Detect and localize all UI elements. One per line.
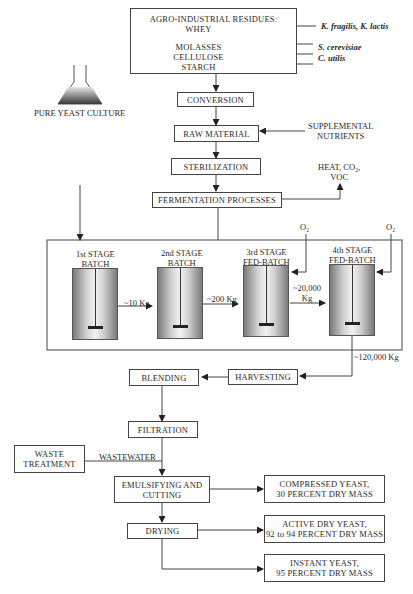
emulsifying-cutting-box: EMULSIFYING AND CUTTING [114, 476, 210, 503]
residues-heading: AGRO-INDUSTRIAL RESIDUES: [150, 14, 278, 24]
waste-treatment-box: WASTE TREATMENT [14, 445, 85, 473]
oxygen-label-3: O₂ [300, 222, 309, 232]
fermentation-box: FERMENTATION PROCESSES [152, 192, 282, 208]
wastewater-label: WASTEWATER [99, 452, 156, 462]
blending-box: BLENDING [129, 369, 199, 386]
transfer-4-out: ~120,000 Kg [354, 352, 399, 362]
emissions-label: HEAT, CO₂, VOC [318, 162, 360, 182]
organism-molasses: S. cerevisiae [318, 42, 361, 52]
stage-1-label: 1st STAGE BATCH [76, 249, 115, 269]
organism-cellulose: C. utilis [318, 53, 345, 63]
fermenter-vessel-4 [329, 264, 375, 336]
oxygen-label-4: O₂ [386, 222, 395, 232]
transfer-3-4: ~20,000 Kg [293, 283, 321, 303]
raw-material-box: RAW MATERIAL [174, 125, 259, 142]
stage-4-label: 4th STAGE FED-BATCH [329, 245, 376, 265]
stage-2-label: 2nd STAGE BATCH [161, 248, 203, 268]
residue-starch: STARCH [181, 62, 215, 72]
transfer-2-3: ~200 Kg [207, 294, 237, 304]
residue-molasses: MOLASSES [175, 42, 221, 52]
organism-whey: K. fragilis, K. lactis [321, 21, 389, 31]
product-instant-yeast: INSTANT YEAST, 95 PERCENT DRY MASS [264, 554, 385, 582]
fermenter-vessel-2 [157, 267, 203, 339]
residues-box: AGRO-INDUSTRIAL RESIDUES: WHEY MOLASSES … [130, 8, 297, 74]
harvesting-box: HARVESTING [228, 369, 298, 385]
pure-yeast-culture-label: PURE YEAST CULTURE [34, 108, 125, 118]
conversion-box: CONVERSION [177, 92, 254, 107]
residue-whey: WHEY [185, 24, 211, 34]
product-active-dry-yeast: ACTIVE DRY YEAST, 92 to 94 PERCENT DRY M… [264, 515, 385, 543]
fermenter-vessel-1 [72, 268, 118, 340]
transfer-1-2: ~10 Kg [124, 298, 150, 308]
filtration-box: FILTRATION [128, 421, 198, 438]
fermenter-vessel-3 [243, 265, 289, 337]
residue-cellulose: CELLULOSE [173, 52, 223, 62]
supplemental-nutrients-label: SUPPLEMENTAL NUTRIENTS [308, 121, 373, 141]
flask-icon [56, 64, 106, 106]
sterilization-box: STERILIZATION [171, 158, 261, 175]
drying-box: DRYING [127, 523, 198, 539]
stage-3-label: 3rd STAGE FED-BATCH [243, 247, 290, 267]
product-compressed-yeast: COMPRESSED YEAST, 30 PERCENT DRY MASS [264, 475, 385, 503]
